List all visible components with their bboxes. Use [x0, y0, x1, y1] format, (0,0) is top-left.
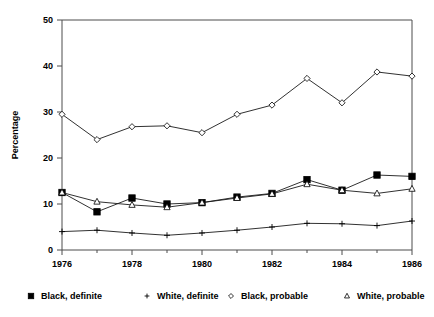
x-tick-label: 1978: [122, 259, 142, 269]
legend-item-label: Black, probable: [241, 291, 308, 301]
y-tick-label: 30: [43, 107, 53, 117]
marker-filled-square: [409, 173, 415, 179]
plot-background: [0, 0, 434, 317]
x-tick-label: 1984: [332, 259, 352, 269]
x-tick-label: 1976: [52, 259, 72, 269]
y-tick-label: 10: [43, 199, 53, 209]
x-tick-label: 1980: [192, 259, 212, 269]
y-tick-label: 40: [43, 61, 53, 71]
legend-item-label: White, definite: [157, 291, 219, 301]
line-chart: 01020304050 197619781980198219841986 Per…: [0, 0, 434, 317]
legend-item-label: Black, definite: [41, 291, 102, 301]
legend-item-black-probable[interactable]: Black, probable: [229, 291, 309, 301]
x-tick-label: 1986: [402, 259, 422, 269]
legend-item-label: White, probable: [357, 291, 425, 301]
y-axis-label: Percentage: [10, 111, 20, 160]
marker-filled-square: [28, 293, 33, 298]
y-tick-label: 20: [43, 153, 53, 163]
marker-filled-square: [94, 209, 100, 215]
marker-filled-square: [374, 172, 380, 178]
x-tick-label: 1982: [262, 259, 282, 269]
chart-figure: 01020304050 197619781980198219841986 Per…: [0, 0, 434, 317]
marker-filled-square: [129, 195, 135, 201]
y-tick-label: 0: [48, 245, 53, 255]
y-tick-label: 50: [43, 15, 53, 25]
legend-item-white-probable[interactable]: White, probable: [344, 291, 424, 301]
